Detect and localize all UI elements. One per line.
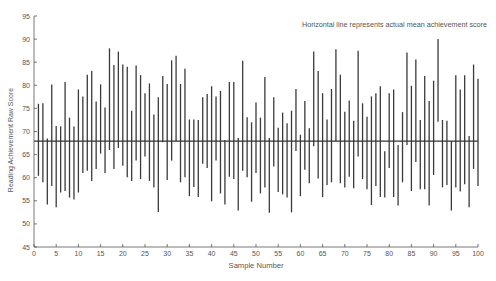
x-tick-label: 55	[274, 250, 282, 257]
y-tick-label: 55	[22, 197, 30, 204]
y-tick-label: 50	[22, 220, 30, 227]
x-tick-label: 40	[208, 250, 216, 257]
y-tick-label: 90	[22, 36, 30, 43]
x-tick-label: 100	[472, 250, 484, 257]
range-bar-chart: 4550556065707580859095051015202530354045…	[0, 0, 496, 281]
chart-container: 4550556065707580859095051015202530354045…	[0, 0, 496, 281]
y-tick-label: 75	[22, 105, 30, 112]
x-tick-label: 65	[319, 250, 327, 257]
x-tick-label: 70	[341, 250, 349, 257]
x-tick-label: 30	[163, 250, 171, 257]
y-tick-label: 70	[22, 128, 30, 135]
chart-annotation: Horizontal line represents actual mean a…	[302, 20, 487, 29]
y-tick-label: 85	[22, 59, 30, 66]
y-tick-label: 65	[22, 151, 30, 158]
y-tick-label: 80	[22, 82, 30, 89]
x-tick-label: 25	[141, 250, 149, 257]
y-tick-label: 60	[22, 174, 30, 181]
x-tick-label: 20	[119, 250, 127, 257]
y-axis-label: Reading Achievement Raw Score	[7, 88, 15, 192]
x-tick-label: 10	[75, 250, 83, 257]
x-tick-label: 5	[54, 250, 58, 257]
x-tick-label: 85	[408, 250, 416, 257]
x-tick-label: 80	[385, 250, 393, 257]
x-tick-label: 75	[363, 250, 371, 257]
x-tick-label: 0	[32, 250, 36, 257]
y-tick-label: 45	[22, 244, 30, 251]
x-tick-label: 60	[297, 250, 305, 257]
x-tick-label: 95	[452, 250, 460, 257]
y-tick-label: 95	[22, 13, 30, 20]
x-tick-label: 45	[230, 250, 238, 257]
x-tick-label: 50	[252, 250, 260, 257]
x-axis-label: Sample Number	[229, 261, 284, 270]
x-tick-label: 35	[186, 250, 194, 257]
x-tick-label: 90	[430, 250, 438, 257]
x-tick-label: 15	[97, 250, 105, 257]
sample-range-bars	[38, 39, 478, 213]
